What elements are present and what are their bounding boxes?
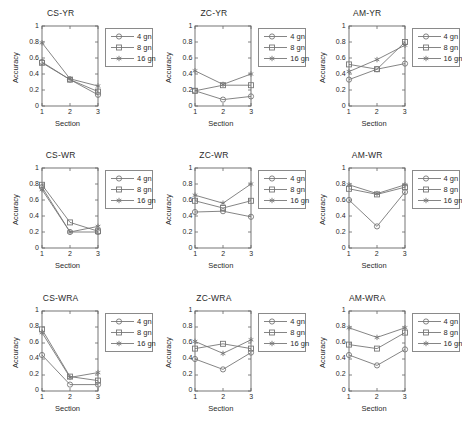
y-tick-label: 0.8 — [18, 38, 39, 45]
series-16-gn — [40, 329, 101, 379]
legend-item[interactable]: 16 gn — [107, 53, 151, 64]
legend-item[interactable]: 4 gn — [107, 316, 151, 327]
legend-item[interactable]: 8 gn — [260, 42, 304, 53]
legend-label: 8 gn — [137, 328, 152, 337]
x-axis-label: Section — [208, 261, 233, 270]
x-tick-label: 3 — [399, 250, 411, 257]
x-axis-label: Section — [55, 261, 80, 270]
y-tick-label: 0.2 — [325, 228, 346, 235]
legend-item[interactable]: 16 gn — [414, 338, 458, 349]
y-tick-label: 0.8 — [171, 38, 192, 45]
legend-label: 8 gn — [444, 185, 459, 194]
chart-panel: ZC-WR00.20.40.60.81123AccuracySection4 g… — [153, 142, 306, 284]
x-tick-label: 1 — [343, 250, 355, 257]
x-tick-label: 1 — [343, 108, 355, 115]
y-tick-label: 0.2 — [325, 370, 346, 377]
series-16-gn — [193, 68, 254, 87]
legend-label: 4 gn — [137, 32, 152, 41]
x-axis-label: Section — [55, 404, 80, 413]
x-tick-label: 2 — [217, 393, 229, 400]
series-8-gn — [346, 330, 407, 351]
legend-item[interactable]: 16 gn — [107, 338, 151, 349]
y-tick-label: 0.8 — [325, 180, 346, 187]
y-tick-label: 1 — [171, 164, 192, 171]
legend-marker-asterisk-icon — [263, 338, 288, 349]
x-tick-label: 3 — [245, 393, 257, 400]
series-4-gn — [193, 88, 254, 102]
x-tick-label: 1 — [36, 108, 48, 115]
legend-item[interactable]: 16 gn — [414, 53, 458, 64]
legend-item[interactable]: 8 gn — [414, 184, 458, 195]
chart-panel: AM-WR00.20.40.60.81123AccuracySection4 g… — [307, 142, 460, 284]
y-tick-label: 0.2 — [325, 86, 346, 93]
y-tick-label: 1 — [171, 306, 192, 313]
x-tick-label: 3 — [399, 393, 411, 400]
legend-marker-square-icon — [110, 327, 135, 338]
legend-item[interactable]: 4 gn — [107, 173, 151, 184]
legend-label: 4 gn — [137, 317, 152, 326]
x-tick-label: 1 — [189, 250, 201, 257]
legend: 4 gn8 gn16 gn — [258, 313, 306, 352]
legend-marker-circle-icon — [263, 31, 288, 42]
legend-item[interactable]: 4 gn — [414, 173, 458, 184]
legend-label: 8 gn — [290, 43, 305, 52]
x-tick-label: 1 — [189, 393, 201, 400]
legend-item[interactable]: 8 gn — [414, 327, 458, 338]
legend-item[interactable]: 8 gn — [260, 184, 304, 195]
x-axis-label: Section — [362, 404, 387, 413]
legend-item[interactable]: 4 gn — [414, 316, 458, 327]
y-tick-label: 1 — [325, 306, 346, 313]
legend-marker-square-icon — [263, 327, 288, 338]
legend-item[interactable]: 4 gn — [414, 31, 458, 42]
legend-item[interactable]: 16 gn — [260, 338, 304, 349]
legend-item[interactable]: 4 gn — [260, 31, 304, 42]
legend-item[interactable]: 4 gn — [107, 31, 151, 42]
legend: 4 gn8 gn16 gn — [105, 313, 153, 352]
legend-item[interactable]: 4 gn — [260, 173, 304, 184]
legend-marker-square-icon — [417, 42, 442, 53]
legend-item[interactable]: 4 gn — [260, 316, 304, 327]
chart-panel: CS-YR00.20.40.60.81123AccuracySection4 g… — [0, 0, 153, 142]
legend-item[interactable]: 8 gn — [414, 42, 458, 53]
legend-item[interactable]: 8 gn — [107, 184, 151, 195]
legend-marker-asterisk-icon — [263, 195, 288, 206]
y-axis-label: Accuracy — [164, 337, 173, 368]
legend-item[interactable]: 16 gn — [414, 195, 458, 206]
y-tick-label: 0.6 — [325, 338, 346, 345]
legend-item[interactable]: 8 gn — [107, 327, 151, 338]
x-tick-label: 1 — [343, 393, 355, 400]
series-4-gn — [39, 352, 100, 387]
x-tick-label: 3 — [92, 108, 104, 115]
y-tick-label: 1 — [18, 164, 39, 171]
x-tick-label: 3 — [92, 250, 104, 257]
legend-label: 16 gn — [444, 339, 462, 348]
legend-marker-circle-icon — [263, 173, 288, 184]
legend-item[interactable]: 16 gn — [107, 195, 151, 206]
legend-label: 8 gn — [137, 185, 152, 194]
legend-marker-circle-icon — [110, 173, 135, 184]
series-4-gn — [39, 185, 100, 235]
y-tick-label: 0.8 — [325, 38, 346, 45]
legend-label: 8 gn — [290, 185, 305, 194]
y-tick-label: 0.4 — [325, 70, 346, 77]
chart-panel: CS-WR00.20.40.60.81123AccuracySection4 g… — [0, 142, 153, 284]
x-tick-label: 2 — [217, 108, 229, 115]
legend-marker-square-icon — [263, 42, 288, 53]
y-tick-label: 0.6 — [18, 54, 39, 61]
y-axis-label: Accuracy — [164, 52, 173, 83]
legend-label: 4 gn — [137, 174, 152, 183]
y-tick-label: 1 — [18, 306, 39, 313]
legend-marker-asterisk-icon — [110, 338, 135, 349]
legend-marker-asterisk-icon — [417, 53, 442, 64]
legend-item[interactable]: 8 gn — [107, 42, 151, 53]
legend-item[interactable]: 16 gn — [260, 195, 304, 206]
legend-item[interactable]: 8 gn — [260, 327, 304, 338]
x-tick-label: 3 — [399, 108, 411, 115]
y-tick-label: 0.4 — [18, 70, 39, 77]
legend-label: 4 gn — [290, 32, 305, 41]
y-tick-label: 0.6 — [171, 196, 192, 203]
x-tick-label: 2 — [371, 250, 383, 257]
legend-marker-square-icon — [417, 327, 442, 338]
legend-item[interactable]: 16 gn — [260, 53, 304, 64]
